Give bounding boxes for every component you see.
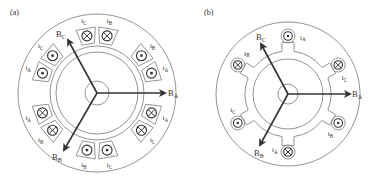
vector-label-b-b: BB [52,152,62,163]
current-label-ia: iA [300,34,306,43]
current-label-ic: iC [342,74,348,83]
current-label-ic: iC [150,136,156,145]
current-label-ia: iA [163,114,169,123]
current-label-ic: iC [81,17,87,26]
current-label-ib: iB [328,130,334,139]
vector-label-b-c: BC [56,29,66,40]
current-label-ia: iA [163,64,169,73]
current-label-ic: iC [230,106,236,115]
vector-label-b-c: BC [256,32,266,43]
panel-b-label: (b) [204,8,214,17]
vector-label-b-a: BA [168,88,179,99]
current-label-ia: iA [25,64,31,73]
panel-a-distributed-winding: (a) iCiBiBiAiAiCiCiBiBiAiAiCBABBBC [10,8,179,172]
current-label-ib: iB [150,42,156,51]
current-label-ib: iB [244,50,250,59]
diagram-stage: (a) iCiBiBiAiAiCiCiBiBiAiAiCBABBBC (b) i… [0,0,376,180]
current-label-ia: iA [272,146,278,155]
current-label-ib: iB [107,17,113,26]
field-vector-b-b [64,93,97,150]
panel-b-concentrated-winding: (b) iAiCiBiAiCiBBABBBC [204,8,363,166]
motor-diagrams: (a) iCiBiBiAiAiCiCiBiBiAiAiCBABBBC (b) i… [0,0,376,180]
current-label-ic: iC [38,42,44,51]
field-vector-b-c [261,44,288,94]
current-label-ib: iB [38,136,44,145]
current-label-ia: iA [25,114,31,123]
current-label-ic: iC [107,161,113,170]
panel-a-label: (a) [10,8,19,17]
vector-label-b-a: BA [352,89,363,100]
current-label-ib: iB [81,161,87,170]
vector-label-b-b: BB [254,148,264,159]
